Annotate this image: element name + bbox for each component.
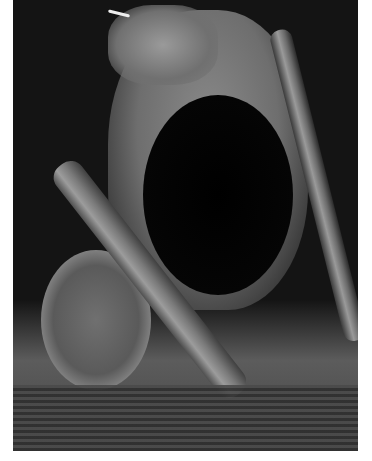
striated-tissue [13,385,358,451]
head-region [108,5,218,85]
microscopy-photo [13,0,358,451]
dark-oval-structure [143,95,293,295]
